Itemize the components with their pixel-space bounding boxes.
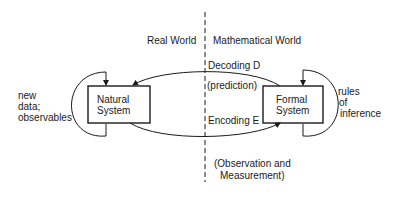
region-label-mathematical-world: Mathematical World [213, 35, 301, 46]
rules-of-inference-label: rules of inference [338, 86, 381, 119]
prediction-label: (prediction) [207, 80, 257, 91]
natural-system-label-line2: System [97, 105, 130, 116]
formal-system-label-line2: System [276, 105, 309, 116]
encoding-label: Encoding E [208, 115, 259, 126]
formal-system-label: Formal System [276, 94, 309, 116]
region-label-real-world: Real World [147, 35, 196, 46]
new-data-label-line3: observables [18, 112, 72, 123]
natural-system-label: Natural System [97, 94, 130, 116]
rules-of-inference-line2: of [338, 97, 381, 108]
new-data-label-line1: new [18, 90, 72, 101]
new-data-label: new data; observables [18, 90, 72, 123]
rules-of-inference-line1: rules [338, 86, 381, 97]
formal-system-label-line1: Formal [276, 94, 309, 105]
natural-system-label-line1: Natural [97, 94, 130, 105]
rules-of-inference-line3: inference [338, 108, 381, 119]
measurement-label: Measurement) [220, 170, 284, 181]
decoding-label: Decoding D [208, 60, 260, 71]
observation-label: (Observation and [214, 158, 291, 169]
new-data-label-line2: data; [18, 101, 72, 112]
